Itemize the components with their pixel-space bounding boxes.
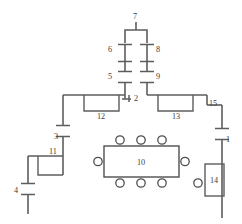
room-12-outline bbox=[84, 95, 119, 111]
corridor-junction-7 bbox=[125, 22, 147, 43]
chair-top-3 bbox=[158, 136, 166, 144]
label-15: 15 bbox=[209, 99, 217, 108]
label-1: 1 bbox=[226, 135, 230, 144]
label-6: 6 bbox=[108, 45, 112, 54]
label-11: 11 bbox=[49, 147, 57, 156]
door-3 bbox=[56, 95, 70, 175]
door-4 bbox=[21, 184, 35, 215]
label-10: 10 bbox=[137, 158, 145, 167]
room-13 bbox=[147, 95, 207, 111]
room-14 bbox=[194, 164, 224, 196]
chair-bottom-1 bbox=[116, 179, 124, 187]
label-7: 7 bbox=[133, 12, 137, 21]
room-13-outline bbox=[158, 95, 193, 111]
floor-plan-canvas: 7 6 8 5 9 2 12 13 15 1 14 3 11 4 10 bbox=[0, 0, 242, 224]
chair-right bbox=[181, 157, 189, 165]
label-5: 5 bbox=[108, 72, 112, 81]
label-4: 4 bbox=[14, 186, 18, 195]
label-13: 13 bbox=[172, 112, 180, 121]
room-11 bbox=[28, 156, 63, 183]
chair-bottom-2 bbox=[137, 179, 145, 187]
floor-plan-diagram: 7 6 8 5 9 2 12 13 15 1 14 3 11 4 10 bbox=[0, 0, 242, 224]
chair-top-2 bbox=[137, 136, 145, 144]
chair-bottom-3 bbox=[158, 179, 166, 187]
fixture-circle-14 bbox=[194, 179, 202, 187]
wall-branch-7-left bbox=[125, 30, 136, 43]
label-8: 8 bbox=[156, 45, 160, 54]
label-2: 2 bbox=[134, 94, 138, 103]
chair-top-1 bbox=[116, 136, 124, 144]
label-9: 9 bbox=[156, 72, 160, 81]
corridor-left-branch bbox=[118, 45, 132, 96]
chair-left bbox=[94, 157, 102, 165]
wall-branch-7-right bbox=[136, 30, 147, 43]
label-14: 14 bbox=[210, 176, 218, 185]
door-2 bbox=[122, 95, 131, 102]
label-3: 3 bbox=[54, 132, 58, 141]
room-11-outline bbox=[38, 156, 63, 175]
label-12: 12 bbox=[97, 112, 105, 121]
corridor-right-branch bbox=[140, 45, 154, 96]
room-12 bbox=[63, 95, 125, 111]
